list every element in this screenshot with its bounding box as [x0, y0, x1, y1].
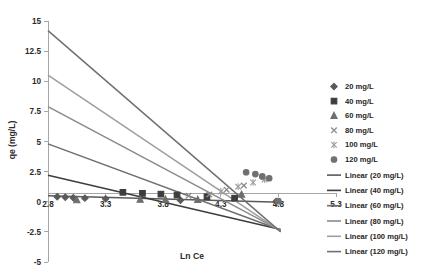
y-tick-label: 0 — [36, 198, 41, 207]
y-axis-ticks — [44, 21, 48, 262]
trend-line-80-mg-l — [48, 107, 281, 231]
legend-label-40-mg-l[interactable]: 40 mg/L — [345, 97, 374, 106]
x-axis-tick-labels: 2.83.33.84.34.85.3 — [42, 200, 342, 209]
legend-label-linear-60-mg-l-[interactable]: Linear (60 mg/L) — [345, 201, 404, 210]
data-point-circle — [331, 157, 337, 163]
y-tick-label: 12.5 — [25, 47, 41, 56]
data-point-triangle — [238, 191, 244, 197]
x-tick-label: 5.3 — [330, 200, 342, 209]
data-markers-group — [54, 169, 281, 204]
y-axis-title: qe (mg/L) — [7, 121, 17, 160]
y-tick-label: -2.5 — [27, 228, 42, 237]
x-axis-title: Ln Ce — [180, 251, 204, 261]
x-axis: 2.83.33.84.34.85.3 — [42, 193, 342, 209]
data-point-star — [218, 188, 224, 195]
legend-label-20-mg-l[interactable]: 20 mg/L — [345, 82, 374, 91]
data-point-square — [140, 191, 146, 197]
legend-label-100-mg-l[interactable]: 100 mg/L — [345, 140, 378, 149]
data-point-diamond — [331, 83, 337, 89]
data-point-star — [250, 179, 256, 186]
x-tick-label: 2.8 — [42, 200, 54, 209]
legend-label-60-mg-l[interactable]: 60 mg/L — [345, 111, 374, 120]
data-point-diamond — [62, 194, 68, 200]
y-tick-label: 2.5 — [30, 168, 42, 177]
legend-label-linear-100-mg-l-[interactable]: Linear (100 mg/L) — [345, 232, 408, 241]
data-point-diamond — [82, 195, 88, 201]
y-tick-label: 10 — [32, 77, 42, 86]
data-point-circle — [243, 169, 249, 175]
data-point-star — [331, 142, 337, 149]
y-tick-label: 5 — [36, 138, 41, 147]
data-point-circle — [259, 174, 265, 180]
legend-label-linear-20-mg-l-[interactable]: Linear (20 mg/L) — [345, 171, 404, 180]
data-point-cross — [224, 187, 230, 193]
data-point-triangle — [331, 112, 337, 118]
legend-label-linear-80-mg-l-[interactable]: Linear (80 mg/L) — [345, 217, 404, 226]
legend-label-linear-120-mg-l-[interactable]: Linear (120 mg/L) — [345, 247, 408, 256]
data-point-circle — [266, 175, 272, 181]
chart-legend: 20 mg/L40 mg/L60 mg/L80 mg/L100 mg/L120 … — [327, 82, 408, 256]
y-axis: 1512.5107.552.50-2.5-5 — [25, 17, 48, 267]
y-tick-label: -5 — [34, 258, 42, 267]
data-point-square — [158, 191, 164, 197]
data-point-circle — [276, 198, 282, 204]
chart-figure: 1512.5107.552.50-2.5-5 2.83.33.84.34.85.… — [0, 0, 424, 280]
data-point-circle — [253, 171, 259, 177]
legend-label-80-mg-l[interactable]: 80 mg/L — [345, 126, 374, 135]
data-point-star — [235, 183, 241, 190]
data-point-square — [331, 98, 337, 104]
data-point-cross — [331, 128, 337, 134]
data-point-diamond — [54, 193, 60, 199]
data-point-square — [232, 195, 238, 201]
data-point-square — [120, 190, 126, 196]
y-tick-label: 7.5 — [30, 107, 42, 116]
legend-label-linear-40-mg-l-[interactable]: Linear (40 mg/L) — [345, 186, 404, 195]
linear-isotherm-plot: 1512.5107.552.50-2.5-5 2.83.33.84.34.85.… — [0, 0, 424, 280]
data-point-square — [174, 192, 180, 198]
legend-label-120-mg-l[interactable]: 120 mg/L — [345, 155, 378, 164]
data-point-cross — [241, 183, 247, 189]
y-axis-tick-labels: 1512.5107.552.50-2.5-5 — [25, 17, 41, 267]
y-tick-label: 15 — [32, 17, 42, 26]
